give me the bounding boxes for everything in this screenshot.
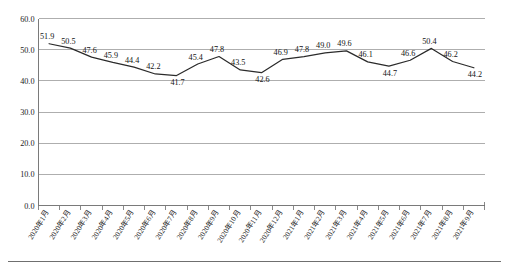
y-axis-tick-label: 0.0	[24, 202, 34, 211]
x-axis-tick-labels: 2020年1月2020年2月2020年3月2020年4月2020年5月2020年…	[26, 209, 476, 244]
data-point-label: 41.7	[170, 78, 184, 87]
data-point-label: 50.5	[61, 37, 75, 46]
y-axis-tick-label: 10.0	[20, 170, 34, 179]
data-point-label: 46.6	[401, 49, 415, 58]
line-chart-figure: 0.010.020.030.040.050.060.0 2020年1月2020年…	[0, 0, 509, 274]
data-point-label: 42.2	[146, 62, 160, 71]
data-point-label: 47.8	[295, 45, 309, 54]
data-point-label: 44.4	[125, 56, 139, 65]
data-point-label: 43.5	[231, 58, 245, 67]
chart-plot-area: 0.010.020.030.040.050.060.0 2020年1月2020年…	[0, 0, 509, 274]
caption-divider	[8, 261, 501, 262]
data-point-label: 50.4	[422, 37, 436, 46]
data-point-label: 51.9	[40, 32, 54, 41]
data-point-label: 49.6	[337, 39, 351, 48]
data-point-label: 46.2	[443, 50, 457, 59]
x-axis	[39, 19, 485, 210]
y-axis-tick-label: 40.0	[20, 77, 34, 86]
data-point-label: 45.4	[189, 53, 203, 62]
x-axis-tick-label: 2021年9月	[451, 209, 476, 241]
data-point-label: 42.6	[255, 75, 269, 84]
y-axis-tick-label: 50.0	[20, 46, 34, 55]
data-point-label: 49.0	[316, 41, 330, 50]
data-point-label: 46.1	[359, 50, 373, 59]
data-point-label: 45.9	[104, 51, 118, 60]
data-point-labels: 51.950.547.645.944.442.241.745.447.843.5…	[40, 32, 482, 87]
y-axis-tick-labels: 0.010.020.030.040.050.060.0	[20, 15, 34, 211]
data-point-label: 44.2	[468, 70, 482, 79]
data-point-label: 46.9	[274, 48, 288, 57]
y-axis-tick-label: 60.0	[20, 15, 34, 24]
data-point-label: 44.7	[383, 69, 397, 78]
gridlines	[39, 19, 485, 175]
y-axis-tick-label: 20.0	[20, 139, 34, 148]
data-point-label: 47.6	[82, 46, 96, 55]
y-axis-tick-label: 30.0	[20, 108, 34, 117]
data-point-label: 47.8	[210, 45, 224, 54]
